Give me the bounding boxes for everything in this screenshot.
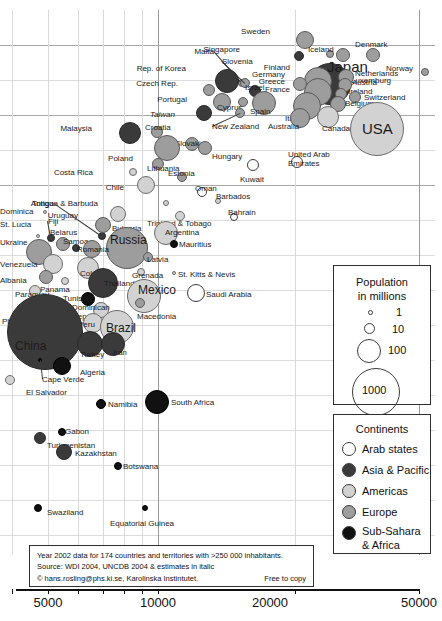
x-axis-label-5000: 5000: [23, 595, 73, 610]
bubble-macedonia[interactable]: [135, 298, 145, 308]
point-label-new-zealand: New Zealand: [212, 122, 259, 131]
legend-swatch-sub-sahara-africa[interactable]: [342, 526, 356, 540]
point-label-croatia: Croatia: [145, 123, 171, 132]
point-label-russia: Russia: [110, 234, 147, 247]
x-axis-tick: [103, 589, 104, 594]
point-label-taiwan: Taiwan: [0, 110, 175, 119]
legend-swatch-europe[interactable]: [342, 505, 356, 519]
pop-legend-circle-1: [368, 310, 373, 315]
point-label-netherlands: Netherlands: [355, 69, 398, 78]
point-label-argentina: Argentina: [165, 228, 199, 237]
bubble-saudi-arabia[interactable]: [187, 284, 205, 302]
point-label-united-arab-emirates: United Arab: [288, 150, 330, 159]
gridline-vertical: [295, 10, 296, 555]
point-label-sweden: Sweden: [0, 27, 270, 36]
bubble-hungary[interactable]: [198, 141, 212, 155]
point-label-iceland: Iceland: [308, 45, 334, 54]
bubble-kazakhstan[interactable]: [56, 444, 72, 460]
point-label-saudi-arabia: Saudi Arabia: [206, 290, 251, 299]
legend-swatch-arab-states[interactable]: [342, 442, 356, 456]
gridline-horizontal: [0, 255, 435, 256]
bubble-st-lucia[interactable]: [36, 234, 40, 238]
bubble-singapore[interactable]: [294, 51, 304, 61]
bubble-st-kitts-nevis[interactable]: [172, 271, 176, 275]
point-label-venezuela: Venezuela: [0, 260, 4, 269]
bubble-algeria[interactable]: [53, 357, 71, 375]
pop-legend-label-100: 100: [388, 344, 406, 356]
bubble-taiwan[interactable]: [196, 105, 212, 121]
point-label-france: France: [0, 85, 290, 94]
bubble-chile[interactable]: [137, 176, 155, 194]
note-line-3: © hans.rosling@phs.ki.se, Karolinska Ins…: [37, 574, 198, 583]
bubble-namibia[interactable]: [96, 399, 106, 409]
point-label-botswana: Botswana: [123, 462, 158, 471]
x-axis-tick: [295, 589, 296, 594]
point-label-dominica: Dominica: [0, 207, 9, 216]
bubble-costa-rica[interactable]: [129, 168, 137, 176]
pop-legend-label-1000: 1000: [362, 384, 386, 396]
continents-legend-title: Continents: [334, 423, 430, 436]
point-label-south-africa: South Africa: [171, 398, 214, 407]
point-label-slovenia: Slovenia: [222, 57, 253, 66]
point-label-malaysia: Malaysia: [0, 124, 92, 133]
continents-legend: Continents Arab states Asia & Pacific Am…: [333, 414, 431, 554]
point-label-ukraine: Ukraine: [0, 238, 5, 247]
x-axis-tick: [12, 589, 13, 594]
bubble-luxemburg[interactable]: [421, 68, 429, 76]
point-label-namibia: Namibia: [108, 400, 137, 409]
bubble-botswana[interactable]: [114, 462, 122, 470]
bubble-albania[interactable]: [39, 270, 53, 284]
bubble-uruguay[interactable]: [110, 206, 126, 222]
point-label-gabon: Gabon: [65, 427, 89, 436]
legend-label-americas: Americas: [362, 485, 408, 497]
population-size-legend: Population in millions 1 10 100 1000: [333, 265, 431, 405]
source-note-box: Year 2002 data for 174 countries and ter…: [29, 545, 314, 587]
pop-legend-circle-100: [357, 339, 381, 363]
bubble-panama[interactable]: [61, 277, 69, 285]
point-label-usa: USA: [362, 121, 393, 137]
point-label-chile: Chile: [0, 183, 124, 192]
bubble-kuwait[interactable]: [247, 159, 259, 171]
legend-swatch-asia-pacific[interactable]: [342, 463, 356, 477]
bubble-turkmenistan[interactable]: [34, 432, 46, 444]
bubble-china[interactable]: [7, 294, 83, 370]
x-axis-tick: [124, 589, 125, 594]
x-axis-label-20000: 20000: [245, 595, 295, 610]
legend-swatch-americas[interactable]: [342, 484, 356, 498]
point-label-fiji: Fiji: [48, 217, 58, 226]
bubble-south-africa[interactable]: [145, 390, 169, 414]
point-label-spain: Spain: [250, 107, 270, 116]
pop-legend-title-line2: in millions: [334, 290, 430, 303]
point-label-bahrain: Bahrain: [228, 208, 256, 217]
x-axis-line: [16, 589, 420, 591]
point-label-canada: Canada: [322, 124, 350, 133]
bubble-equatorial-guinea[interactable]: [142, 505, 148, 511]
pop-legend-label-1: 1: [396, 306, 402, 318]
bubble-norway[interactable]: [366, 48, 380, 62]
point-label-belarus: Belarus: [50, 228, 77, 237]
bubble-mauritius[interactable]: [170, 240, 178, 248]
pop-legend-label-10: 10: [392, 323, 404, 335]
x-axis-tick: [78, 589, 79, 594]
x-axis-tick: [419, 589, 420, 594]
x-axis-label-10000: 10000: [133, 595, 183, 610]
pop-legend-title-line1: Population: [334, 276, 430, 289]
bubble-dominica[interactable]: [43, 210, 47, 214]
point-label-estonia: Estonia: [168, 169, 195, 178]
point-label-united-arab-emirates-line2: Emirates: [288, 159, 320, 168]
note-free-to-copy: Free to copy: [264, 574, 306, 583]
point-label-mauritius: Mauritius: [179, 240, 211, 249]
legend-label-asia-pacific: Asia & Pacific: [362, 464, 429, 476]
bubble-el-salvador[interactable]: [5, 375, 15, 385]
bubble-malaysia[interactable]: [119, 122, 141, 144]
point-label-el-salvador: El Salvador: [26, 388, 67, 397]
bubble-antigua-barbuda[interactable]: [163, 200, 169, 206]
x-axis-tick: [158, 589, 159, 594]
bubble-swaziland[interactable]: [34, 504, 42, 512]
legend-label-arab-states: Arab states: [362, 443, 418, 455]
bubble-bulgaria[interactable]: [95, 217, 111, 233]
point-label-algeria: Algeria: [80, 368, 105, 377]
gridline-horizontal: [0, 220, 435, 221]
point-label-poland: Poland: [0, 154, 133, 163]
